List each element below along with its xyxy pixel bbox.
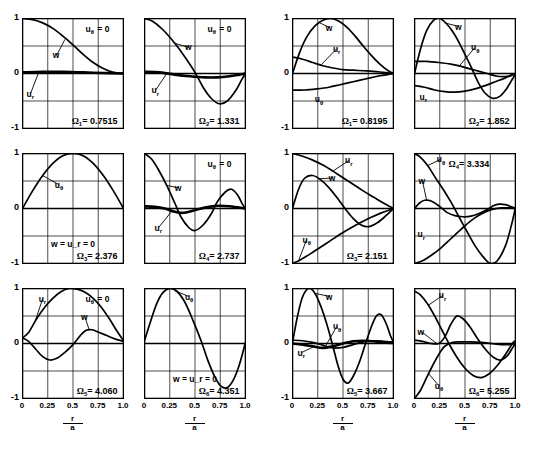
curve-label-u_theta: uθ — [435, 381, 443, 392]
curve-label-u_theta: uθ — [333, 321, 341, 332]
curve-label-u_theta: uθ — [471, 42, 479, 53]
curve-label-w: w — [52, 50, 60, 60]
x-tick-label: 0.5 — [329, 401, 357, 410]
x-tick-label: 0.75 — [476, 401, 504, 410]
x-tick-label: 0 — [8, 401, 36, 410]
curve-label-u_r: ur — [333, 44, 341, 55]
x-axis-title: ra — [455, 415, 475, 432]
curve-label-w: w — [80, 312, 88, 322]
x-axis-title: ra — [63, 415, 83, 432]
panel-note: uθ = 0 — [86, 24, 110, 35]
frequency-label: Ω6= 4.351 — [199, 386, 240, 397]
x-tick-label: 0.25 — [33, 401, 61, 410]
y-tick-label: 0 — [6, 337, 19, 347]
curve-label-u_r: ur — [152, 85, 160, 96]
mode-panel-p2: wuruθ = 0Ω2= 1.331 — [144, 18, 246, 129]
y-tick-label: -1 — [6, 257, 19, 267]
curve-label-w: w — [174, 183, 182, 193]
curve-label-w: w — [328, 173, 336, 183]
x-tick-label: 0 — [278, 401, 306, 410]
x-tick-label: 1.0 — [231, 401, 259, 410]
x-tick-label: 0.25 — [425, 401, 453, 410]
mode-panel-p5: urwuθ = 0Ω5= 4.060 — [22, 288, 124, 399]
curve-label-u_r: ur — [39, 294, 47, 305]
x-axis-denominator: a — [455, 424, 475, 432]
mode-panel-p7: wuruθΩ1= 0.8195 — [292, 18, 394, 129]
y-tick-label: 0 — [276, 337, 289, 347]
frequency-label: Ω5= 4.060 — [77, 386, 118, 397]
mode-panel-p6: uθw = u_r = 0Ω6= 4.351 — [144, 288, 246, 399]
frequency-label: Ω4= 2.737 — [199, 251, 240, 262]
mode-panel-p1: wuruθ = 0Ω1= 0.7515 — [22, 18, 124, 129]
curve-label-u_r: ur — [298, 348, 306, 359]
mode-shape-figure: wuruθ = 0Ω1= 0.751510-1wuruθ = 0Ω2= 1.33… — [0, 0, 539, 455]
y-tick-label: 0 — [276, 67, 289, 77]
x-axis-denominator: a — [333, 424, 353, 432]
mode-panel-p9: urwuθΩ3= 2.151 — [292, 153, 394, 264]
mode-panel-p11: wuθurΩ5= 3.667 — [292, 288, 394, 399]
x-tick-label: 1.0 — [501, 401, 529, 410]
frequency-label: Ω5= 3.667 — [347, 386, 388, 397]
curve-label-u_r: ur — [439, 290, 447, 301]
frequency-label: Ω3= 2.376 — [77, 251, 118, 262]
curve-label-u_theta: uθ — [437, 154, 445, 165]
curve-label-w: w — [417, 327, 425, 337]
y-tick-label: 0 — [276, 202, 289, 212]
mode-panel-p12: urwuθΩ6= 5.255 — [414, 288, 516, 399]
leader-line-u_r — [31, 72, 39, 93]
x-axis-denominator: a — [185, 424, 205, 432]
panel-note: uθ = 0 — [208, 24, 232, 35]
curve-label-w: w — [418, 176, 426, 186]
x-tick-label: 0.75 — [206, 401, 234, 410]
curve-u_r — [23, 72, 124, 74]
curve-label-w: w — [325, 292, 333, 302]
curve-label-w: w — [454, 22, 462, 32]
y-tick-label: 1 — [276, 282, 289, 292]
leader-line-u_r — [302, 346, 315, 352]
x-axis-title: ra — [185, 415, 205, 432]
curve-label-u_r: ur — [345, 155, 353, 166]
curve-label-w: w — [325, 23, 333, 33]
y-tick-label: -1 — [276, 257, 289, 267]
panel-note: uθ = 0 — [208, 159, 232, 170]
y-tick-label: -1 — [276, 122, 289, 132]
x-axis-title: ra — [333, 415, 353, 432]
curve-label-u_theta: uθ — [315, 94, 323, 105]
y-tick-label: 1 — [276, 147, 289, 157]
frequency-label: Ω2= 1.331 — [199, 116, 240, 127]
y-tick-label: 1 — [6, 282, 19, 292]
panel-note: uθ = 0 — [86, 294, 110, 305]
curve-label-w: w — [184, 42, 192, 52]
mode-panel-p4: wuruθ = 0Ω4= 2.737 — [144, 153, 246, 264]
y-tick-label: 0 — [6, 67, 19, 77]
mode-panel-p10: uθwurΩ4= 3.334 — [414, 153, 516, 264]
x-tick-label: 0.25 — [303, 401, 331, 410]
x-tick-label: 0 — [400, 401, 428, 410]
x-tick-label: 0.75 — [354, 401, 382, 410]
frequency-label: Ω2= 1.852 — [469, 116, 510, 127]
x-axis-denominator: a — [63, 424, 83, 432]
y-tick-label: 1 — [276, 12, 289, 22]
x-tick-label: 0.5 — [451, 401, 479, 410]
y-tick-label: -1 — [6, 122, 19, 132]
x-tick-label: 0.5 — [181, 401, 209, 410]
mode-panel-p8: wuθurΩ2= 1.852 — [414, 18, 516, 129]
y-tick-label: 1 — [6, 12, 19, 22]
y-tick-label: 1 — [6, 147, 19, 157]
x-tick-label: 0.5 — [59, 401, 87, 410]
y-tick-label: 0 — [6, 202, 19, 212]
curve-label-u_r: ur — [418, 229, 426, 240]
frequency-label: Ω6= 5.255 — [469, 386, 510, 397]
curve-label-u_r: ur — [420, 92, 428, 103]
frequency-label: Ω4= 3.334 — [449, 159, 490, 170]
leader-line-u_r — [156, 74, 167, 91]
frequency-label: Ω3= 2.151 — [347, 251, 388, 262]
mode-panel-p3: uθw = u_r = 0Ω3= 2.376 — [22, 153, 124, 264]
curve-label-u_r: ur — [27, 89, 35, 100]
panel-note-zero: w = u_r = 0 — [50, 239, 95, 249]
frequency-label: Ω1= 0.8195 — [342, 116, 388, 127]
panel-note-zero: w = u_r = 0 — [172, 374, 217, 384]
x-tick-label: 0.75 — [84, 401, 112, 410]
curve-label-u_theta: uθ — [185, 292, 193, 303]
frequency-label: Ω1= 0.7515 — [72, 116, 118, 127]
